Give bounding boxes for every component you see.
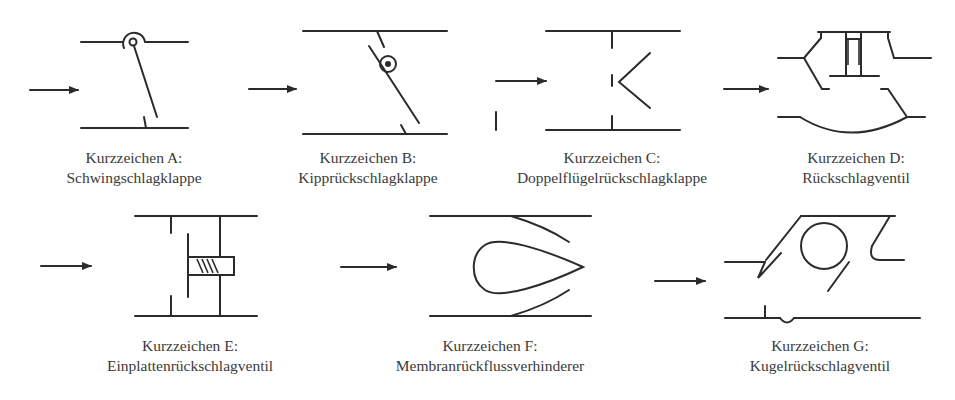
caption-g: Kurzzeichen G: Kugelrückschlagventil [750,336,890,376]
caption-a: Kurzzeichen A: Schwingschlagklappe [66,148,201,188]
symbol-a-swing-check-valve [30,33,188,128]
caption-a-label: Kurzzeichen A: [66,148,201,168]
caption-e: Kurzzeichen E: Einplattenrückschlagventi… [107,336,273,376]
caption-c: Kurzzeichen C: Doppelflügelrückschlagkla… [517,148,707,188]
symbol-b-tilting-disc-check-valve [249,31,447,134]
caption-e-name: Einplattenrückschlagventil [107,356,273,376]
symbol-e-single-plate-check-valve [41,216,257,316]
caption-b-name: Kipprückschlagklappe [298,168,437,188]
caption-f: Kurzzeichen F: Membranrückflussverhinder… [396,336,585,376]
caption-b-label: Kurzzeichen B: [298,148,437,168]
caption-c-name: Doppelflügelrückschlagklappe [517,168,707,188]
caption-d-label: Kurzzeichen D: [802,148,910,168]
caption-g-name: Kugelrückschlagventil [750,356,890,376]
symbol-c-dual-plate-check-valve [496,31,680,130]
caption-f-name: Membranrückflussverhinderer [396,356,585,376]
caption-c-label: Kurzzeichen C: [517,148,707,168]
caption-d-name: Rückschlagventil [802,168,910,188]
caption-b: Kurzzeichen B: Kipprückschlagklappe [298,148,437,188]
symbol-f-diaphragm-backflow-preventer [341,216,591,316]
symbol-g-ball-check-valve [655,216,920,323]
caption-a-name: Schwingschlagklappe [66,168,201,188]
caption-e-label: Kurzzeichen E: [107,336,273,356]
caption-f-label: Kurzzeichen F: [396,336,585,356]
caption-d: Kurzzeichen D: Rückschlagventil [802,148,910,188]
symbol-d-check-valve [724,32,931,133]
caption-g-label: Kurzzeichen G: [750,336,890,356]
